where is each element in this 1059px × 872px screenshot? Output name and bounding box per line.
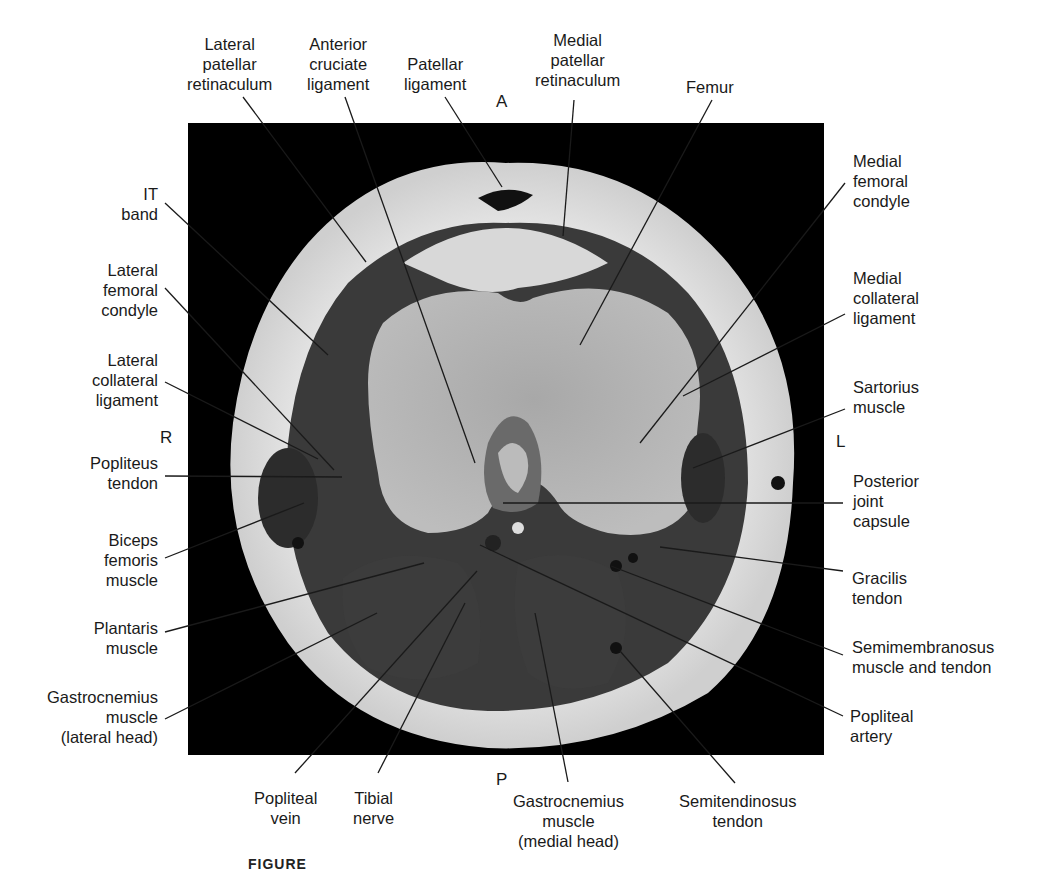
- orientation-right: R: [160, 428, 172, 448]
- label-patellar-ligament: Patellar ligament: [404, 54, 466, 94]
- label-medial-patellar-retinaculum: Medial patellar retinaculum: [535, 30, 620, 90]
- label-tibial-nerve: Tibial nerve: [353, 788, 394, 828]
- label-posterior-joint-capsule: Posterior joint capsule: [853, 471, 919, 531]
- label-popliteus-tendon: Popliteus tendon: [90, 453, 158, 493]
- label-popliteal-vein: Popliteal vein: [254, 788, 317, 828]
- label-medial-femoral-condyle: Medial femoral condyle: [853, 151, 910, 211]
- label-femur: Femur: [686, 77, 734, 97]
- label-semitendinosus-tendon: Semitendinosus tendon: [679, 791, 796, 831]
- label-lateral-collateral-ligament: Lateral collateral ligament: [92, 350, 158, 410]
- label-gracilis-tendon: Gracilis tendon: [852, 568, 907, 608]
- label-lateral-femoral-condyle: Lateral femoral condyle: [101, 260, 158, 320]
- label-lateral-patellar-retinaculum: Lateral patellar retinaculum: [187, 34, 272, 94]
- label-popliteal-artery: Popliteal artery: [850, 706, 913, 746]
- orientation-posterior: P: [496, 770, 507, 790]
- figure-caption: FIGURE: [248, 856, 307, 872]
- label-gastrocnemius-medial-head: Gastrocnemius muscle (medial head): [513, 791, 624, 851]
- label-it-band: IT band: [121, 184, 158, 224]
- label-medial-collateral-ligament: Medial collateral ligament: [853, 268, 919, 328]
- label-biceps-femoris-muscle: Biceps femoris muscle: [104, 530, 158, 590]
- orientation-anterior: A: [496, 92, 507, 112]
- label-gastrocnemius-lateral-head: Gastrocnemius muscle (lateral head): [47, 687, 158, 747]
- label-plantaris-muscle: Plantaris muscle: [94, 618, 158, 658]
- orientation-left: L: [836, 432, 845, 452]
- label-anterior-cruciate-ligament: Anterior cruciate ligament: [307, 34, 369, 94]
- label-sartorius-muscle: Sartorius muscle: [853, 377, 919, 417]
- label-semimembranosus: Semimembranosus muscle and tendon: [852, 637, 994, 677]
